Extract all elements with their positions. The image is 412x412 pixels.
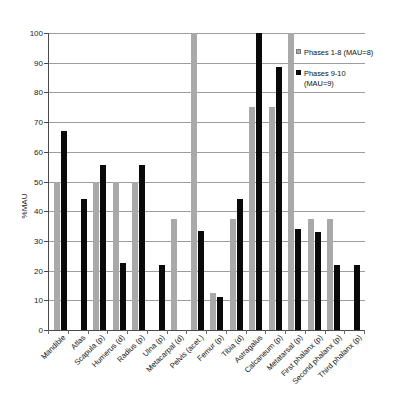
legend-entry[interactable]: Phases 9-10 (MAU=9): [296, 69, 408, 88]
bar[interactable]: [269, 107, 275, 330]
bar[interactable]: [249, 107, 255, 330]
y-tick-mark: [44, 122, 48, 123]
bar-group: [90, 33, 110, 330]
y-tick-label: 100: [30, 29, 43, 38]
bar[interactable]: [81, 199, 87, 330]
bar[interactable]: [327, 219, 333, 330]
bar[interactable]: [159, 265, 165, 330]
bar[interactable]: [276, 67, 282, 330]
series-2-swatch: [296, 70, 301, 75]
y-tick-mark: [44, 241, 48, 242]
series-1-swatch: [296, 49, 301, 54]
bar-group: [207, 33, 227, 330]
y-tick-label: 0: [39, 326, 43, 335]
cropped-caption-text: · · · · · · · · ·: [0, 0, 412, 14]
bar[interactable]: [334, 265, 340, 330]
y-tick-label: 40: [34, 207, 43, 216]
y-tick-mark: [44, 300, 48, 301]
bar[interactable]: [191, 33, 197, 330]
bar[interactable]: [61, 131, 67, 330]
y-tick-mark: [44, 33, 48, 34]
bar-group: [149, 33, 169, 330]
bar-group: [168, 33, 188, 330]
y-tick-mark: [44, 152, 48, 153]
legend-label: Phases 1-8 (MAU=8): [304, 48, 373, 57]
bar[interactable]: [256, 33, 262, 330]
x-axis-category-label: Mandible: [39, 333, 67, 361]
bar[interactable]: [237, 199, 243, 330]
chart-legend: Phases 1-8 (MAU=8)Phases 9-10 (MAU=9): [296, 48, 408, 100]
bar[interactable]: [210, 293, 216, 330]
y-tick-label: 10: [34, 296, 43, 305]
y-tick-label: 50: [34, 177, 43, 186]
y-tick-mark: [44, 211, 48, 212]
y-tick-label: 30: [34, 236, 43, 245]
y-tick-mark: [44, 182, 48, 183]
bar[interactable]: [354, 265, 360, 330]
bar[interactable]: [132, 182, 138, 331]
bar-group: [188, 33, 208, 330]
bar[interactable]: [198, 231, 204, 330]
bar[interactable]: [308, 219, 314, 330]
x-axis-labels: MandibleAtlasScapula (p)Humerus (d)Radiu…: [48, 333, 364, 411]
y-tick-label: 90: [34, 58, 43, 67]
bar[interactable]: [120, 263, 126, 330]
bar[interactable]: [93, 182, 99, 331]
y-tick-label: 60: [34, 147, 43, 156]
bar[interactable]: [113, 182, 119, 331]
y-tick-label: 70: [34, 118, 43, 127]
bar-group: [51, 33, 71, 330]
y-tick-mark: [44, 271, 48, 272]
x-tick-mark: [364, 330, 365, 334]
legend-label: Phases 9-10 (MAU=9): [304, 69, 346, 88]
chart-figure: · · · · · · · · · %MAU 01020304050607080…: [0, 0, 412, 412]
bar-group: [246, 33, 266, 330]
bar-group: [129, 33, 149, 330]
bar[interactable]: [139, 165, 145, 330]
bar[interactable]: [171, 219, 177, 330]
bar-group: [71, 33, 91, 330]
legend-entry[interactable]: Phases 1-8 (MAU=8): [296, 48, 408, 57]
bar[interactable]: [217, 297, 223, 330]
y-tick-label: 80: [34, 88, 43, 97]
bar[interactable]: [315, 232, 321, 330]
bar-group: [266, 33, 286, 330]
y-tick-mark: [44, 63, 48, 64]
bar[interactable]: [54, 182, 60, 331]
bar-group: [110, 33, 130, 330]
y-tick-mark: [44, 92, 48, 93]
bar[interactable]: [100, 165, 106, 330]
bar[interactable]: [295, 229, 301, 330]
bar-group: [227, 33, 247, 330]
y-tick-label: 20: [34, 266, 43, 275]
bar[interactable]: [288, 33, 294, 330]
y-axis-title: %MAU: [20, 194, 29, 219]
bar[interactable]: [230, 219, 236, 330]
